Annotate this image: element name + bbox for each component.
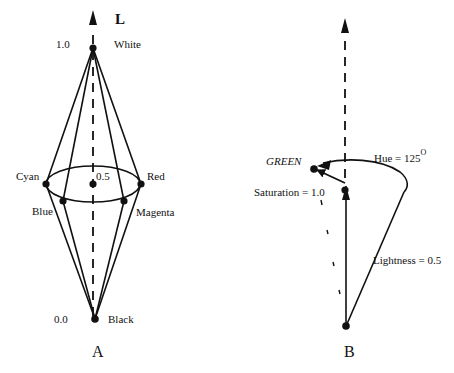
caption-b: B — [344, 343, 355, 360]
saturation-vector — [317, 170, 345, 183]
panel-a-double-cone: L 1.0 White 0.5 Cyan Red Blue Magenta 0.… — [16, 10, 175, 360]
red-label: Red — [147, 170, 165, 182]
panel-b-hsl-vector: GREEN Hue = 125O Saturation = 1.0 Lightn… — [254, 18, 442, 360]
green-point — [310, 165, 318, 173]
black-label: Black — [108, 313, 134, 325]
b-axis-arrow-icon — [341, 18, 349, 33]
bottom-value: 0.0 — [54, 313, 68, 325]
cyan-label: Cyan — [16, 170, 40, 182]
hue-arc — [323, 160, 407, 192]
red-point — [137, 180, 144, 187]
lightness-label: Lightness = 0.5 — [373, 254, 442, 266]
black-point — [91, 315, 99, 323]
mid-value: 0.5 — [96, 170, 110, 182]
white-point — [89, 44, 96, 51]
saturation-point — [341, 186, 348, 193]
caption-a: A — [92, 343, 104, 360]
axis-arrow-icon — [89, 10, 97, 25]
hue-arrow-icon — [317, 160, 331, 170]
magenta-point — [120, 197, 127, 204]
axis-label-l: L — [115, 11, 125, 27]
magenta-label: Magenta — [136, 206, 175, 218]
b-origin-point — [342, 322, 350, 330]
blue-point — [59, 197, 66, 204]
cyan-point — [42, 180, 49, 187]
white-label: White — [114, 38, 141, 50]
blue-label: Blue — [32, 205, 53, 217]
green-label: GREEN — [266, 155, 302, 167]
hue-label: Hue = 125O — [374, 148, 427, 164]
top-value: 1.0 — [56, 38, 70, 50]
saturation-label: Saturation = 1.0 — [254, 186, 325, 198]
hsl-diagram: L 1.0 White 0.5 Cyan Red Blue Magenta 0.… — [0, 0, 454, 373]
